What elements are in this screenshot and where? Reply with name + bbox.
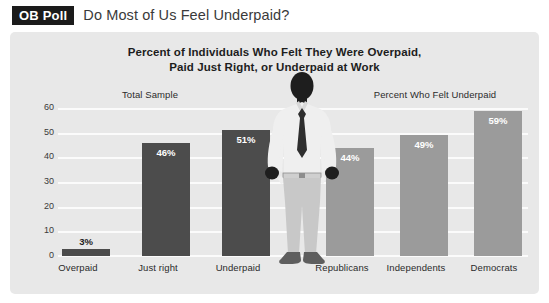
y-tick-40: 40 (32, 151, 54, 161)
bar-overpaid[interactable]: 3% (62, 249, 110, 256)
y-tick-50: 50 (32, 127, 54, 137)
bar-democrats[interactable]: 59% (474, 111, 522, 257)
x-label-underpaid: Underpaid (192, 262, 284, 273)
group-label-felt-underpaid: Percent Who Felt Underpaid (335, 89, 535, 100)
bar-value-overpaid: 3% (62, 236, 110, 247)
bar-independents[interactable]: 49% (400, 135, 448, 256)
gridline-30 (58, 182, 528, 184)
bar-underpaid[interactable]: 51% (222, 130, 270, 256)
y-axis: 60 50 40 30 20 10 0 (30, 108, 54, 256)
chart-title-line-2: Paid Just Right, or Underpaid at Work (10, 60, 539, 75)
gridline-0 (58, 255, 528, 257)
gridline-10 (58, 231, 528, 233)
page-title: Do Most of Us Feel Underpaid? (83, 7, 289, 23)
y-tick-60: 60 (32, 102, 54, 112)
chart-panel: Percent of Individuals Who Felt They Wer… (10, 32, 539, 294)
plot-area: 3% 46% 51% 44% 49% 59% (58, 108, 528, 256)
gridline-60 (58, 108, 528, 110)
bar-value-republicans: 44% (326, 152, 374, 163)
x-label-overpaid: Overpaid (32, 262, 124, 273)
chart-title-line-1: Percent of Individuals Who Felt They Wer… (10, 45, 539, 60)
y-tick-20: 20 (32, 201, 54, 211)
y-tick-0: 0 (32, 250, 54, 260)
brand-badge: OB Poll (12, 6, 74, 25)
bar-value-underpaid: 51% (222, 134, 270, 145)
header-bar: OB Poll Do Most of Us Feel Underpaid? (0, 0, 549, 30)
gridline-50 (58, 133, 528, 135)
y-tick-10: 10 (32, 225, 54, 235)
bar-value-just-right: 46% (142, 147, 190, 158)
bar-value-independents: 49% (400, 139, 448, 150)
chart-title: Percent of Individuals Who Felt They Wer… (10, 45, 539, 75)
y-tick-30: 30 (32, 176, 54, 186)
x-label-democrats: Democrats (444, 262, 539, 273)
gridline-40 (58, 157, 528, 159)
x-label-just-right: Just right (112, 262, 204, 273)
bar-republicans[interactable]: 44% (326, 148, 374, 257)
bar-just-right[interactable]: 46% (142, 143, 190, 257)
gridline-20 (58, 207, 528, 209)
poll-infographic: OB Poll Do Most of Us Feel Underpaid? Pe… (0, 0, 549, 303)
bar-value-democrats: 59% (474, 115, 522, 126)
group-label-total-sample: Total Sample (60, 89, 240, 100)
